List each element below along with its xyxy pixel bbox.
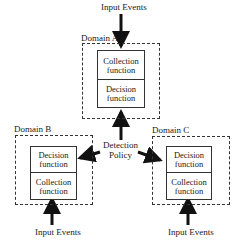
- input-events-label-a: Input Events: [101, 2, 147, 12]
- domain-c-label: Domain C: [152, 125, 189, 135]
- domain-a-label: Domain A: [81, 33, 118, 43]
- domain-a-decision-function: Decision function: [98, 80, 144, 108]
- input-events-label-c: Input Events: [168, 227, 214, 237]
- domain-a-collection-function: Collection function: [98, 51, 144, 80]
- detection-policy-line2: Policy: [109, 150, 132, 160]
- domain-c-function-box: Decision function Collection function: [166, 146, 212, 200]
- input-events-label-b: Input Events: [35, 227, 81, 237]
- domain-b-function-box: Decision function Collection function: [30, 146, 77, 200]
- domain-b-label: Domain B: [14, 124, 51, 134]
- domain-c-decision-function: Decision function: [167, 147, 211, 172]
- domain-b-collection-function: Collection function: [31, 173, 76, 200]
- domain-c-collection-function: Collection function: [167, 173, 211, 200]
- detection-policy-line1: Detection: [103, 140, 138, 150]
- domain-b-decision-function: Decision function: [31, 147, 76, 172]
- domain-a-function-box: Collection function Decision function: [97, 50, 145, 108]
